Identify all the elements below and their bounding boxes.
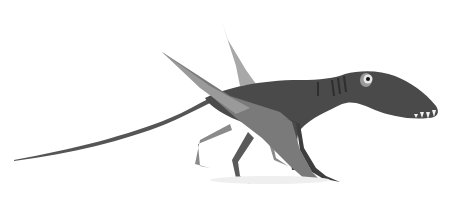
pterosaur-illustration: [0, 0, 463, 198]
tail: [14, 98, 212, 161]
far-hind-leg: [195, 124, 232, 168]
near-hind-leg: [232, 132, 254, 184]
illustration-canvas: Pterosaur: [0, 0, 463, 198]
far-wing: [222, 22, 256, 86]
ground-shadow: [210, 176, 330, 184]
